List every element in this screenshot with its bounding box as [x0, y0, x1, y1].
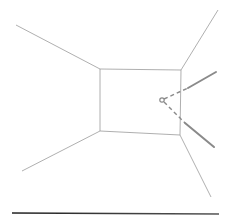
upper-ray-solid [188, 72, 216, 88]
back-wall [100, 69, 181, 135]
edge-top-right [181, 10, 218, 70]
lower-ray-solid [185, 123, 214, 147]
upper-ray-dashed [164, 88, 188, 99]
perspective-diagram [0, 0, 239, 216]
eye-point [160, 98, 164, 102]
ground-line [12, 213, 219, 214]
diagram-svg [0, 0, 239, 216]
viewing-rays [164, 72, 216, 147]
viewpoint-icon [160, 98, 164, 102]
lower-ray-dashed [164, 102, 185, 123]
edge-bottom-left [22, 131, 100, 171]
ground-baseline [12, 213, 219, 214]
edge-bottom-right [180, 135, 211, 197]
edge-top-left [16, 25, 100, 69]
room-outline [16, 10, 218, 197]
